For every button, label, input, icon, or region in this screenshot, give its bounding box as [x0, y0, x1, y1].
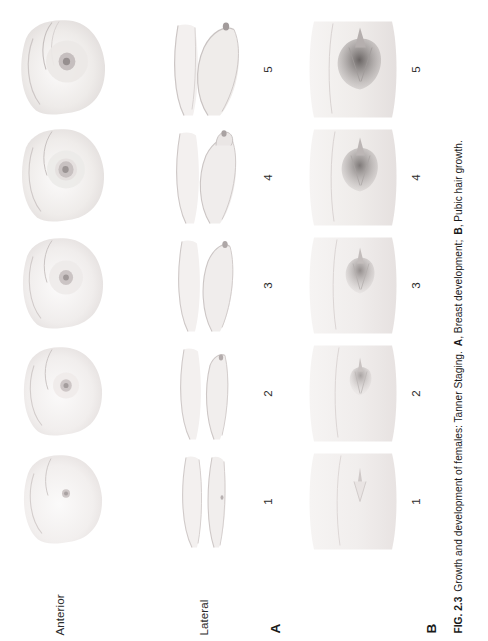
row-pubic-hair: 1	[300, 0, 430, 641]
cell-anterior-stage-5: 5	[8, 17, 112, 121]
stage-number: 2	[262, 341, 274, 445]
cell-lateral-stage-2: 2	[152, 341, 256, 445]
cell-pubic-stage-4: 4	[300, 125, 404, 229]
stage-number: 4	[262, 125, 274, 229]
caption-part-a-text: , Breast development;	[453, 239, 464, 338]
figure-page: Anterior	[0, 0, 488, 641]
illustration-pubic-stage-3	[300, 233, 404, 337]
illustration-anterior-stage-5	[8, 17, 112, 121]
cell-pubic-stage-3: 3	[300, 233, 404, 337]
illustration-pubic-stage-4	[300, 125, 404, 229]
caption-part-b-text: , Pubic hair growth.	[453, 140, 464, 227]
row-anterior-breast: Anterior	[8, 0, 138, 641]
figure-number: FIG. 2.3	[453, 596, 464, 633]
stage-number: 1	[262, 449, 274, 553]
illustration-anterior-stage-4	[8, 125, 112, 229]
illustration-lateral-stage-5	[152, 17, 256, 121]
tanner-staging-plate: Anterior	[0, 0, 488, 641]
illustration-pubic-stage-2	[300, 341, 404, 445]
caption-part-a-letter: A	[453, 338, 464, 345]
cell-lateral-stage-3: 3	[152, 233, 256, 337]
illustration-lateral-stage-1	[152, 449, 256, 553]
row-lateral-breast: Lateral 1	[152, 0, 282, 641]
illustration-anterior-stage-1	[8, 449, 112, 553]
stage-number: 3	[262, 233, 274, 337]
cell-pubic-stage-5: 5	[300, 17, 404, 121]
cell-lateral-stage-4: 4	[152, 125, 256, 229]
cell-anterior-stage-1: 1	[8, 449, 112, 553]
cell-anterior-stage-2: 2	[8, 341, 112, 445]
stage-number: 5	[410, 17, 422, 121]
cell-lateral-stage-1: 1	[152, 449, 256, 553]
illustration-anterior-stage-2	[8, 341, 112, 445]
stage-number: 5	[262, 17, 274, 121]
row-label-lateral: Lateral	[198, 559, 210, 635]
cell-pubic-stage-1: 1	[300, 449, 404, 553]
cell-anterior-stage-4: 4	[8, 125, 112, 229]
cell-anterior-stage-3: 3	[8, 233, 112, 337]
stage-number: 3	[410, 233, 422, 337]
illustration-anterior-stage-3	[8, 233, 112, 337]
illustration-lateral-stage-2	[152, 341, 256, 445]
illustration-lateral-stage-3	[152, 233, 256, 337]
row-label-anterior: Anterior	[54, 559, 66, 635]
caption-part-b-letter: B	[453, 227, 464, 234]
stage-number: 1	[410, 449, 422, 553]
illustration-pubic-stage-1	[300, 449, 404, 553]
illustration-pubic-stage-5	[300, 17, 404, 121]
caption-main-text: Growth and development of females: Tanne…	[453, 351, 464, 592]
figure-caption: FIG. 2.3Growth and development of female…	[452, 7, 465, 633]
stage-number: 2	[410, 341, 422, 445]
illustration-lateral-stage-4	[152, 125, 256, 229]
cell-pubic-stage-2: 2	[300, 341, 404, 445]
cell-lateral-stage-5: 5	[152, 17, 256, 121]
stage-number: 4	[410, 125, 422, 229]
